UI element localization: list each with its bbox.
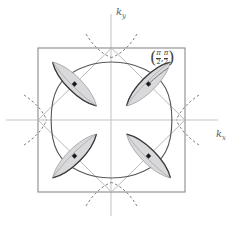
close-paren: ) (168, 48, 174, 67)
y-axis-subscript: y (122, 12, 126, 20)
fermi-surface-figure: ky kx (π2,π2) (0, 0, 245, 229)
pocket-coordinate-label: (π2,π2) (150, 50, 175, 66)
x-axis-label: kx (216, 128, 226, 142)
y-axis-label: ky (116, 6, 126, 20)
figure-canvas (0, 0, 245, 229)
x-axis-subscript: x (222, 134, 226, 142)
